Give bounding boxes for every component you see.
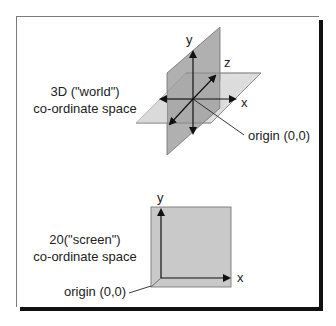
origin-label-3d: origin (0,0) <box>248 128 310 144</box>
origin-label-2d: origin (0,0) <box>64 284 126 300</box>
x-axis-label-2d: x <box>237 270 244 286</box>
origin-leader-2d <box>129 286 151 293</box>
screen-space-caption-line1: 20("screen") <box>25 232 145 248</box>
y-axis-label-3d: y <box>186 32 193 48</box>
screen-space-caption-line2: co-ordinate space <box>25 249 145 265</box>
z-axis-label-3d: z <box>224 55 231 71</box>
world-space-illustration <box>136 27 261 155</box>
y-axis-label-2d: y <box>157 190 164 206</box>
world-space-caption-line2: co-ordinate space <box>25 101 145 117</box>
coordinate-space-diagram <box>0 0 336 326</box>
screen-plane <box>151 207 231 287</box>
x-axis-label-3d: x <box>241 95 248 111</box>
world-space-caption-line1: 3D ("world") <box>25 84 145 100</box>
